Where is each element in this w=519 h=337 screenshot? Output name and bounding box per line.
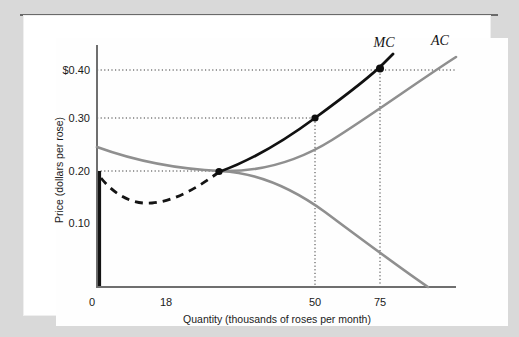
marker-quantity-50 [311,114,318,121]
x-axis-title: Quantity (thousands of roses per month) [183,313,371,325]
x-tick-label-75: 75 [374,296,386,308]
ac-curve [97,57,456,287]
x-tick-label-18: 18 [160,296,172,308]
marker-quantity-75 [376,65,384,73]
y-tick-label-020: 0.20 [69,165,90,177]
mc-curve-label: MC [373,35,396,50]
y-axis-title: Price (dollars per rose) [53,117,65,223]
ac-curve-label: AC [430,33,450,48]
y-tick-label-030: 0.30 [69,112,90,124]
figure-page: MC AC $0.40 0.30 0.20 0.10 0 18 50 75 Qu… [0,0,519,337]
y-tick-label-040: $0.40 [62,64,90,76]
mc-curve-dashed-segment [101,172,219,203]
y-tick-label-010: 0.10 [69,217,90,229]
chart-plot-area: MC AC $0.40 0.30 0.20 0.10 0 18 50 75 Qu… [0,0,519,337]
x-tick-label-0: 0 [89,296,95,308]
marker-mc-ac-intersection [215,168,222,175]
x-tick-label-50: 50 [309,296,321,308]
